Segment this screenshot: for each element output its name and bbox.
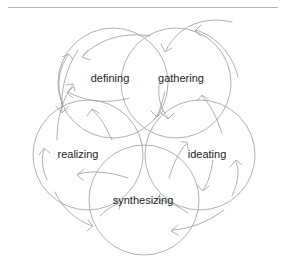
arrow-ideating-outer-up-right: [230, 160, 242, 196]
arrow-gathering-to-defining: [82, 35, 150, 60]
arrow-realizing-outer-up: [39, 148, 50, 180]
arrow-gathering-outer-right: [195, 25, 238, 77]
arrow-synthesizing-to-realizing: [77, 169, 128, 180]
label-realizing: realizing: [58, 148, 99, 160]
arrow-gathering-down-to-ideating: [159, 85, 174, 119]
arrow-ideating-inner-up: [169, 142, 188, 178]
process-cycle-diagram: defining gathering realizing ideating sy…: [0, 0, 285, 277]
circle-group: [33, 28, 255, 255]
label-ideating: ideating: [188, 148, 227, 160]
diagram-page: defining gathering realizing ideating sy…: [0, 0, 285, 277]
arrow-top-into-gathering: [161, 20, 232, 52]
arrow-gathering-inner-down: [151, 92, 165, 117]
arrow-realizing-to-synthesizing-inner: [87, 109, 112, 140]
label-group: defining gathering realizing ideating sy…: [58, 72, 227, 206]
label-defining: defining: [91, 72, 130, 84]
arrow-defining-to-realizing: [67, 87, 129, 101]
label-synthesizing: synthesizing: [113, 194, 174, 206]
arrow-realizing-outer-bottom: [55, 192, 93, 231]
arrow-ideating-down-right: [197, 160, 213, 191]
label-gathering: gathering: [158, 72, 204, 84]
